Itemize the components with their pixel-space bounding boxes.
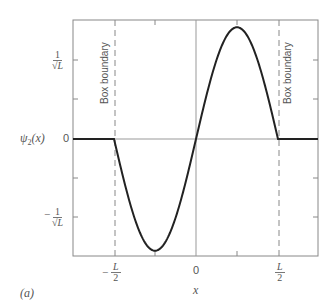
x-tick-minus-sign: − xyxy=(102,266,108,278)
x-tick-zero: 0 xyxy=(193,264,199,276)
x-tick-minus-L-over-2: L 2 xyxy=(111,262,121,283)
x-axis-label: x xyxy=(193,283,198,298)
x-tick-L-over-2: L 2 xyxy=(275,262,285,283)
y-tick-plus-1-over-sqrtL: 1 √L xyxy=(52,50,63,71)
y-axis-label: ψ2(x) xyxy=(20,131,45,147)
y-tick-minus-1-over-sqrtL: 1 √L xyxy=(52,207,63,228)
y-tick-minus-sign: − xyxy=(44,208,50,220)
panel-label: (a) xyxy=(20,286,34,301)
box-boundary-right-label: Box boundary xyxy=(282,42,293,104)
y-tick-zero: 0 xyxy=(63,132,69,144)
box-boundary-left-label: Box boundary xyxy=(99,42,110,104)
